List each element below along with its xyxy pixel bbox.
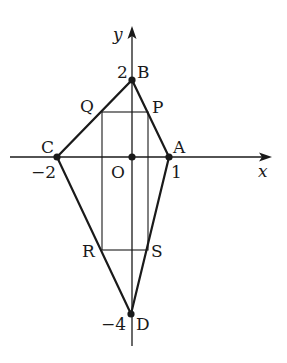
tick-a-label: 1	[171, 162, 182, 182]
point-d-label: D	[136, 314, 150, 334]
rectangle-pqrs	[102, 112, 148, 250]
point-b-dot	[128, 76, 135, 83]
point-p-label: P	[152, 97, 163, 117]
point-r-label: R	[82, 241, 96, 261]
tick-b-label: 2	[117, 62, 128, 82]
point-q-label: Q	[80, 96, 94, 116]
point-s-label: S	[151, 241, 163, 261]
point-d-dot	[127, 310, 134, 317]
x-axis-label: x	[258, 161, 268, 181]
tick-c-label: −2	[31, 162, 56, 182]
tick-d-label: −4	[101, 314, 126, 334]
point-c-label: C	[41, 137, 54, 157]
point-b-label: B	[137, 62, 150, 82]
coordinate-diagram: y x 2 B Q P C A −2 O 1 R S −4 D	[0, 0, 287, 363]
y-axis-label: y	[112, 24, 123, 44]
point-c-dot	[53, 153, 60, 160]
point-a-dot	[165, 153, 172, 160]
point-a-label: A	[172, 137, 186, 157]
origin-label: O	[111, 162, 125, 182]
point-o-dot	[128, 153, 135, 160]
